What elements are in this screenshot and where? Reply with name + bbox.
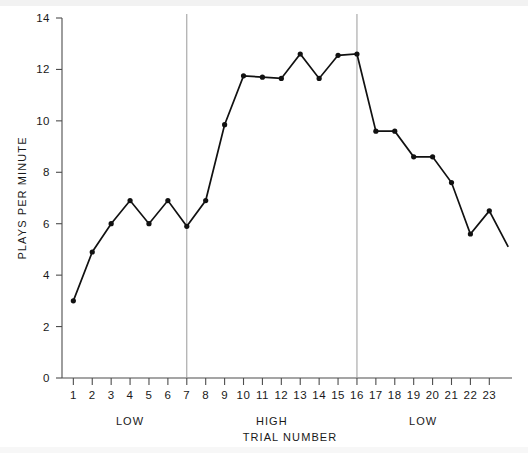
data-point-trial-17 (373, 129, 378, 134)
y-axis-title: PLAYS PER MINUTE (16, 136, 28, 259)
y-tick-label-10: 10 (36, 115, 50, 127)
data-point-trial-22 (468, 231, 473, 236)
data-point-trial-15 (335, 53, 340, 58)
x-tick-label-2: 2 (89, 389, 96, 401)
x-tick-label-14: 14 (312, 389, 326, 401)
data-point-trial-3 (109, 221, 114, 226)
line-chart-svg: 02468101214 1234567891011121314151617181… (0, 0, 528, 453)
data-point-trial-7 (184, 224, 189, 229)
data-point-trial-5 (146, 221, 151, 226)
x-tick-label-18: 18 (388, 389, 402, 401)
data-point-trial-13 (298, 51, 303, 56)
x-tick-label-21: 21 (445, 389, 459, 401)
data-point-trial-11 (260, 75, 265, 80)
y-tick-label-6: 6 (43, 218, 50, 230)
data-point-trial-12 (279, 76, 284, 81)
data-point-trial-4 (127, 198, 132, 203)
x-tick-label-22: 22 (464, 389, 478, 401)
data-point-trial-23 (487, 208, 492, 213)
x-tick-label-9: 9 (221, 389, 228, 401)
x-tick-label-6: 6 (164, 389, 171, 401)
y-tick-label-2: 2 (43, 321, 50, 333)
data-point-trial-16 (354, 51, 359, 56)
data-point-trial-9 (222, 122, 227, 127)
y-tick-label-14: 14 (36, 12, 50, 24)
x-tick-group: 1234567891011121314151617181920212223 (70, 378, 496, 401)
x-tick-label-7: 7 (183, 389, 190, 401)
x-tick-label-19: 19 (407, 389, 421, 401)
x-tick-label-10: 10 (237, 389, 251, 401)
data-point-trial-19 (411, 154, 416, 159)
x-tick-label-4: 4 (127, 389, 134, 401)
y-tick-group: 02468101214 (36, 12, 62, 384)
phase-label-0-low: LOW (116, 415, 144, 427)
x-tick-label-13: 13 (293, 389, 307, 401)
plays-per-minute-series-line (73, 54, 508, 301)
phase-divider-group (187, 14, 357, 378)
data-point-trial-20 (430, 154, 435, 159)
data-point-trial-8 (203, 198, 208, 203)
data-point-marker-group (71, 51, 492, 303)
x-tick-label-11: 11 (256, 389, 269, 401)
x-tick-label-8: 8 (202, 389, 209, 401)
x-tick-label-12: 12 (274, 389, 288, 401)
x-tick-label-17: 17 (369, 389, 383, 401)
data-point-trial-2 (90, 249, 95, 254)
x-axis-title: TRIAL NUMBER (243, 431, 338, 443)
data-point-trial-18 (392, 129, 397, 134)
phase-label-2-low: LOW (409, 415, 437, 427)
chart-figure: 02468101214 1234567891011121314151617181… (0, 0, 528, 453)
x-tick-label-23: 23 (482, 389, 496, 401)
x-tick-label-3: 3 (108, 389, 115, 401)
data-point-trial-1 (71, 298, 76, 303)
x-tick-label-1: 1 (70, 389, 77, 401)
data-point-trial-6 (165, 198, 170, 203)
data-point-trial-10 (241, 73, 246, 78)
phase-label-group: LOWHIGHLOW (116, 415, 437, 427)
data-point-trial-14 (317, 76, 322, 81)
y-tick-label-0: 0 (43, 372, 50, 384)
x-tick-label-15: 15 (331, 389, 345, 401)
phase-label-1-high: HIGH (256, 415, 288, 427)
x-tick-label-20: 20 (426, 389, 440, 401)
y-tick-label-8: 8 (43, 166, 50, 178)
y-tick-label-12: 12 (36, 63, 50, 75)
data-point-trial-21 (449, 180, 454, 185)
x-tick-label-5: 5 (146, 389, 153, 401)
x-tick-label-16: 16 (350, 389, 364, 401)
y-tick-label-4: 4 (43, 269, 50, 281)
